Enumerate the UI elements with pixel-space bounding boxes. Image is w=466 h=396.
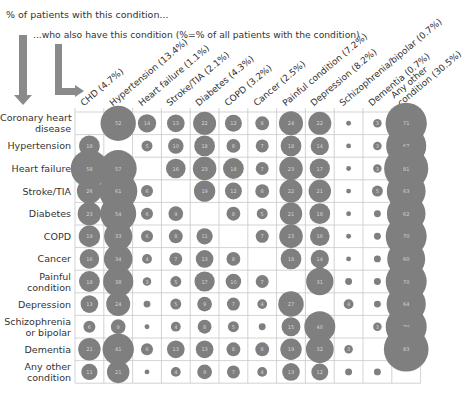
- svg-text:4: 4: [174, 369, 177, 375]
- svg-text:8: 8: [174, 233, 177, 239]
- bubble: [346, 234, 351, 239]
- bubble: 18: [194, 136, 215, 157]
- svg-text:7: 7: [174, 256, 177, 262]
- svg-text:5: 5: [261, 211, 264, 217]
- svg-text:7: 7: [261, 143, 264, 149]
- svg-text:11: 11: [201, 233, 207, 239]
- svg-text:22: 22: [317, 120, 323, 126]
- svg-text:7: 7: [232, 301, 235, 307]
- svg-text:8: 8: [232, 256, 235, 262]
- bubble: [345, 278, 352, 285]
- bubble: 18: [223, 158, 244, 179]
- svg-text:13: 13: [173, 120, 179, 126]
- bubble: 7: [256, 162, 269, 175]
- svg-text:6: 6: [145, 211, 148, 217]
- bubble: [374, 255, 381, 262]
- svg-text:18: 18: [230, 166, 236, 172]
- svg-text:8: 8: [261, 346, 264, 352]
- bubble: 9: [197, 365, 212, 380]
- svg-text:70: 70: [403, 279, 409, 285]
- svg-text:14: 14: [317, 143, 323, 149]
- svg-text:4: 4: [347, 301, 350, 307]
- bubble: [374, 278, 381, 285]
- svg-text:70: 70: [403, 233, 409, 239]
- svg-text:24: 24: [115, 301, 121, 307]
- bubble: 6: [141, 343, 153, 355]
- bubble: 21: [78, 338, 100, 360]
- bubble: [145, 324, 150, 329]
- svg-text:14: 14: [144, 120, 150, 126]
- svg-text:18: 18: [288, 143, 294, 149]
- bubble: 6: [141, 185, 153, 197]
- bubble: 21: [280, 202, 302, 224]
- svg-text:15: 15: [288, 324, 294, 330]
- svg-text:8: 8: [232, 346, 235, 352]
- svg-text:9: 9: [174, 211, 177, 217]
- svg-text:8: 8: [261, 120, 264, 126]
- bubble: 9: [111, 319, 126, 334]
- bubble: 9: [197, 297, 212, 312]
- bubble: 13: [167, 114, 185, 132]
- bubble: 23: [279, 157, 302, 180]
- bubble: 8: [226, 207, 240, 221]
- svg-text:27: 27: [288, 301, 294, 307]
- bubble: 4: [171, 322, 181, 332]
- svg-text:21: 21: [115, 369, 121, 375]
- svg-text:54: 54: [115, 211, 121, 217]
- bubble: 13: [196, 340, 214, 358]
- svg-text:8: 8: [261, 188, 264, 194]
- svg-text:21: 21: [86, 346, 92, 352]
- bubble: 7: [256, 230, 269, 243]
- bubble: 12: [225, 183, 242, 200]
- svg-text:8: 8: [203, 324, 206, 330]
- bubble: 5: [142, 140, 153, 151]
- svg-text:13: 13: [173, 346, 179, 352]
- bubble: 4: [344, 299, 354, 309]
- bubble: 23: [193, 157, 216, 180]
- bubble: 7: [256, 139, 269, 152]
- svg-text:16: 16: [86, 256, 92, 262]
- bubble: 19: [280, 339, 301, 360]
- svg-text:9: 9: [203, 369, 206, 375]
- svg-text:17: 17: [201, 279, 207, 285]
- bubble: [374, 301, 381, 308]
- svg-text:24: 24: [288, 120, 294, 126]
- bubble: 12: [311, 363, 328, 380]
- svg-text:38: 38: [115, 279, 121, 285]
- bubble: 21: [309, 180, 331, 202]
- bubble: 14: [311, 250, 329, 268]
- svg-text:12: 12: [317, 369, 323, 375]
- bubble: 18: [281, 136, 302, 157]
- bubble: 5: [228, 321, 239, 332]
- svg-text:5: 5: [145, 143, 148, 149]
- bubble: 8: [255, 184, 269, 198]
- bubble: 13: [282, 363, 300, 381]
- svg-text:13: 13: [288, 369, 294, 375]
- bubble: 3: [344, 345, 352, 353]
- bubble: 5: [170, 276, 181, 287]
- bubble: 27: [278, 291, 303, 316]
- bubble: 3: [373, 164, 381, 172]
- svg-text:4: 4: [174, 324, 177, 330]
- bubble: 22: [193, 112, 216, 135]
- bubble: [374, 233, 381, 240]
- svg-text:22: 22: [201, 120, 207, 126]
- bubble: 41: [103, 334, 134, 365]
- svg-text:4: 4: [261, 301, 264, 307]
- bubble: 13: [167, 340, 185, 358]
- svg-text:58: 58: [86, 166, 92, 172]
- svg-text:61: 61: [115, 188, 121, 194]
- svg-text:64: 64: [403, 301, 409, 307]
- bubble: 5: [257, 208, 268, 219]
- svg-text:60: 60: [403, 256, 409, 262]
- bubble: 3: [143, 277, 151, 285]
- bubble: 7: [256, 275, 269, 288]
- svg-text:12: 12: [230, 188, 236, 194]
- svg-text:71: 71: [403, 120, 409, 126]
- svg-text:5: 5: [232, 324, 235, 330]
- bubble: [346, 211, 351, 216]
- svg-text:23: 23: [288, 233, 294, 239]
- bubble: 19: [79, 226, 100, 247]
- bubble: 11: [196, 228, 212, 244]
- svg-text:5: 5: [174, 279, 177, 285]
